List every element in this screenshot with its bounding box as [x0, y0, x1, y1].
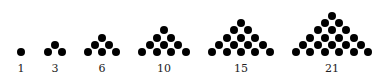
dot — [17, 48, 25, 56]
dot — [335, 19, 343, 27]
dot — [328, 12, 336, 20]
dot — [342, 41, 350, 49]
dot — [321, 19, 329, 27]
dot — [328, 41, 336, 49]
dot — [167, 48, 175, 56]
dot — [58, 48, 66, 56]
dot — [230, 41, 238, 49]
dot — [335, 34, 343, 42]
dot — [153, 48, 161, 56]
figure-label: 3 — [52, 63, 59, 74]
dot — [215, 41, 223, 49]
dot — [208, 48, 216, 56]
dot — [237, 48, 245, 56]
dot — [306, 34, 314, 42]
dot — [350, 34, 358, 42]
dot — [105, 41, 113, 49]
dot — [314, 41, 322, 49]
dot — [174, 41, 182, 49]
dot — [44, 48, 52, 56]
dot — [292, 48, 300, 56]
dot — [84, 48, 92, 56]
figure-label: 6 — [99, 63, 106, 74]
triangular-numbers-diagram: 136101521 — [0, 0, 380, 76]
dot — [364, 48, 372, 56]
dot — [230, 26, 238, 34]
dot — [251, 34, 259, 42]
dot — [91, 41, 99, 49]
dot — [138, 48, 146, 56]
dot — [244, 26, 252, 34]
dot — [321, 48, 329, 56]
dot — [299, 41, 307, 49]
dot — [259, 41, 267, 49]
dot — [266, 48, 274, 56]
dot — [146, 41, 154, 49]
dot — [182, 48, 190, 56]
dot — [314, 26, 322, 34]
dot — [160, 41, 168, 49]
dot — [167, 34, 175, 42]
dot — [244, 41, 252, 49]
dot — [153, 34, 161, 42]
dot — [237, 19, 245, 27]
figure-label: 10 — [157, 63, 171, 74]
dot — [328, 26, 336, 34]
dot — [112, 48, 120, 56]
dot — [160, 26, 168, 34]
figure-label: 15 — [234, 63, 248, 74]
dot — [342, 26, 350, 34]
dot — [321, 34, 329, 42]
dot — [350, 48, 358, 56]
dot — [237, 34, 245, 42]
dot — [357, 41, 365, 49]
dot — [335, 48, 343, 56]
figure-label: 1 — [18, 63, 25, 74]
dot — [223, 34, 231, 42]
dot — [98, 34, 106, 42]
dot — [98, 48, 106, 56]
dot — [306, 48, 314, 56]
figure-label: 21 — [325, 63, 339, 74]
dot — [223, 48, 231, 56]
dot — [251, 48, 259, 56]
dot — [51, 41, 59, 49]
